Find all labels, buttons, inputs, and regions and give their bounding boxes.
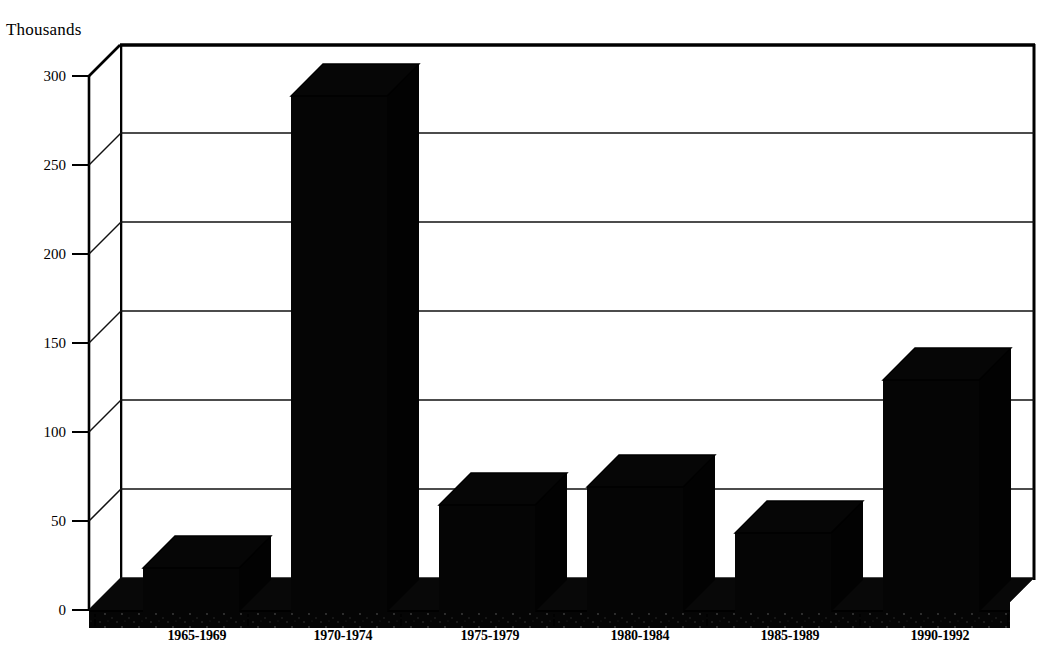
y-tick-label-200: 200 xyxy=(22,246,66,263)
plot-left-wall xyxy=(88,44,121,611)
y-tick-label-100: 100 xyxy=(22,424,66,441)
chart-plot-area xyxy=(0,0,1062,658)
x-tick-label-1990-1992: 1990-1992 xyxy=(911,628,970,644)
x-tick-label-1980-1984: 1980-1984 xyxy=(611,628,670,644)
bar-1980-1984[interactable] xyxy=(587,455,715,612)
y-tick-label-50: 50 xyxy=(22,513,66,530)
x-tick-label-1965-1969: 1965-1969 xyxy=(168,628,227,644)
bar-1990-1992[interactable] xyxy=(883,348,1011,612)
y-tick-label-250: 250 xyxy=(22,157,66,174)
bar-1970-1974[interactable] xyxy=(291,64,419,612)
x-tick-label-1975-1979: 1975-1979 xyxy=(461,628,520,644)
bar-1985-1989[interactable] xyxy=(735,501,863,612)
y-tick-label-300: 300 xyxy=(22,68,66,85)
bar-1975-1979[interactable] xyxy=(439,473,567,612)
x-tick-label-1970-1974: 1970-1974 xyxy=(314,628,373,644)
y-tick-label-150: 150 xyxy=(22,335,66,352)
y-tick-label-0: 0 xyxy=(22,602,66,619)
chart-container: Thousands xyxy=(0,0,1062,658)
y-axis-ticks xyxy=(72,76,89,610)
x-tick-label-1985-1989: 1985-1989 xyxy=(761,628,820,644)
